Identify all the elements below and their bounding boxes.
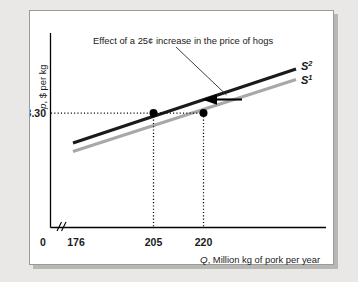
screenshot-root: p, $ per kg S2 S1 [0,0,358,282]
x-axis-break-icon [57,222,66,231]
figure-panel: p, $ per kg S2 S1 [29,10,334,265]
data-point-220 [200,109,208,117]
curve-label-s1: S1 [301,73,312,86]
y-axis-title: p, $ per kg [37,64,48,110]
annotation-leader-line [176,47,227,95]
svg-text:p, $ per kg: p, $ per kg [37,64,48,110]
annotation-text: Effect of a 25¢ increase in the price of… [93,35,273,46]
curve-label-s2: S2 [301,59,313,72]
x-tick-label-205: 205 [145,236,163,248]
origin-label: 0 [40,236,46,248]
x-axis-title-units: , Million kg of pork per year [208,254,321,265]
supply-curve-s2 [73,69,296,143]
y-axis-title-units: , $ per kg [37,64,48,103]
supply-curve-s1 [73,80,296,152]
x-tick-label-176: 176 [67,236,85,248]
supply-shift-chart: p, $ per kg S2 S1 [30,11,335,266]
x-axis-title: Q, Million kg of pork per year [200,254,320,265]
data-point-205 [150,109,158,117]
y-tick-label-330: 3.30 [30,107,46,119]
x-tick-label-220: 220 [195,236,213,248]
